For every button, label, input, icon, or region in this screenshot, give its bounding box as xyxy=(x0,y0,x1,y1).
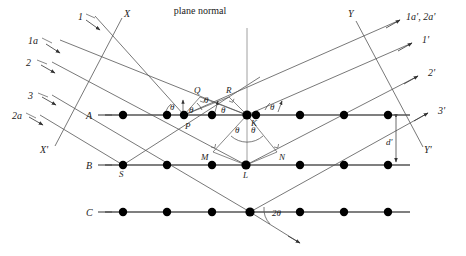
label-ray-3-prime: 3' xyxy=(437,105,446,116)
atom xyxy=(296,161,304,169)
atom xyxy=(208,111,216,119)
label-point-S: S xyxy=(119,169,124,179)
planes-group xyxy=(105,110,410,216)
arrowhead-ray-3 xyxy=(42,97,56,105)
diagram-canvas: plane normal 1 1a 2 3 2a 1a', 2a' 1' 2' … xyxy=(0,0,466,256)
label-point-X: X xyxy=(123,8,131,19)
segment-KM xyxy=(213,115,247,152)
atom-L xyxy=(241,160,250,169)
plane-row-B xyxy=(105,160,410,169)
arrowhead-transmitted xyxy=(288,236,300,243)
label-point-L: L xyxy=(242,170,248,180)
incident-ray-2 xyxy=(52,62,246,165)
atom xyxy=(384,161,392,169)
angle-theta-label: θ xyxy=(221,105,226,115)
atom-P xyxy=(180,111,188,119)
atom xyxy=(296,208,304,216)
label-plane-A: A xyxy=(85,110,93,121)
leader-2a xyxy=(26,113,36,118)
wavefront-XX-prime xyxy=(55,18,122,146)
atom xyxy=(163,161,171,169)
angle-theta-label: θ xyxy=(270,102,275,112)
atom xyxy=(119,111,127,119)
atom xyxy=(296,111,304,119)
label-point-P: P xyxy=(184,121,191,131)
atom xyxy=(163,111,171,119)
arrowhead-ray-1 xyxy=(86,20,100,30)
incident-rays-group xyxy=(40,16,260,212)
construction-lines-group xyxy=(184,97,277,165)
angle-theta-label: θ xyxy=(170,102,175,112)
plane-row-C xyxy=(105,207,410,216)
incident-ray-2a xyxy=(40,115,123,165)
label-point-N: N xyxy=(278,152,286,162)
angle-tick-K xyxy=(278,101,282,112)
label-ray-3: 3 xyxy=(27,90,33,101)
atom xyxy=(384,111,392,119)
atom xyxy=(340,111,348,119)
label-spacing-d: d' xyxy=(386,137,394,147)
angle-2theta-label: 2θ xyxy=(272,208,282,218)
label-plane-C: C xyxy=(86,207,93,218)
right-angle-mark-M xyxy=(211,144,216,148)
angle-theta-label: θ xyxy=(204,95,209,105)
leader-2 xyxy=(37,60,47,64)
segment-NL xyxy=(246,152,277,165)
leader-1a xyxy=(42,38,52,43)
label-plane-B: B xyxy=(86,160,92,171)
label-ray-1: 1 xyxy=(78,11,83,22)
arrowhead-ray-2-prime xyxy=(404,76,418,84)
leader-3 xyxy=(38,93,48,97)
atom xyxy=(208,208,216,216)
bragg-diffraction-figure: plane normal 1 1a 2 3 2a 1a', 2a' 1' 2' … xyxy=(0,0,466,256)
atom xyxy=(163,208,171,216)
label-point-M: M xyxy=(200,152,209,162)
right-angle-mark-N xyxy=(274,144,279,148)
label-ray-2a: 2a xyxy=(12,110,22,121)
wavefront-YY-prime xyxy=(356,21,423,147)
leader-1 xyxy=(86,14,95,18)
angle-theta-label: θ xyxy=(189,105,194,115)
plane-normal-label: plane normal xyxy=(174,5,227,16)
atom-S xyxy=(119,161,127,169)
arrowhead-ray-1a-prime xyxy=(386,20,400,28)
arrowhead-ray-2a xyxy=(29,117,43,125)
label-ray-1a-prime-2a-prime: 1a', 2a' xyxy=(406,11,436,22)
label-point-Y: Y xyxy=(348,8,355,19)
label-point-X-prime: X' xyxy=(39,144,49,155)
angle-theta-label: θ xyxy=(235,125,240,135)
label-leaders-group xyxy=(26,14,95,118)
arrowhead-ray-3-prime xyxy=(414,113,428,121)
atom xyxy=(384,208,392,216)
arrowhead-ray-1-prime xyxy=(398,43,412,51)
label-ray-1-prime: 1' xyxy=(422,34,430,45)
label-point-Y-prime: Y' xyxy=(424,144,433,155)
reflected-ray-3-prime xyxy=(250,113,428,212)
reflected-arrowheads-group xyxy=(288,20,428,243)
label-ray-1a: 1a xyxy=(28,35,38,46)
label-ray-2-prime: 2' xyxy=(428,67,436,78)
incident-ray-1 xyxy=(95,16,184,115)
atom xyxy=(208,161,216,169)
label-point-R: R xyxy=(225,85,232,95)
label-point-Q: Q xyxy=(194,85,201,95)
atom xyxy=(340,161,348,169)
angle-theta-label: θ xyxy=(251,125,256,135)
label-ray-2: 2 xyxy=(26,57,31,68)
atom xyxy=(245,207,254,216)
arrowhead-ray-2 xyxy=(41,65,55,73)
atom xyxy=(119,208,127,216)
arrowhead-ray-1a xyxy=(46,44,60,53)
plane-row-A xyxy=(105,110,410,119)
reflected-ray-1a-prime xyxy=(184,20,400,115)
atom xyxy=(340,208,348,216)
segment-ML xyxy=(213,152,246,165)
